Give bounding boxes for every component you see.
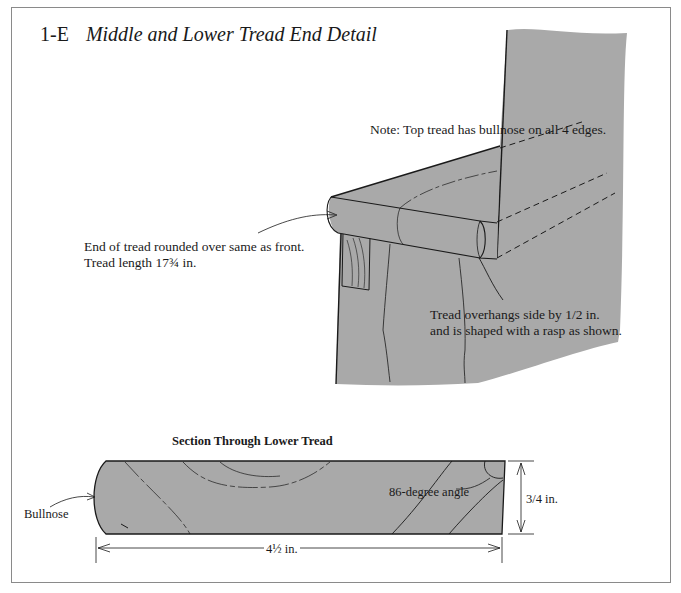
top-tread-note: Note: Top tread has bullnose on all 4 ed… — [370, 122, 606, 138]
section-title: Section Through Lower Tread — [172, 433, 333, 449]
end-of-tread-callout: End of tread rounded over same as front.… — [84, 239, 304, 271]
drawing-canvas — [0, 0, 681, 593]
width-dimension-label: 4½ in. — [264, 541, 300, 557]
bullnose-label: Bullnose — [24, 506, 68, 522]
figure-title: 1-E Middle and Lower Tread End Detail — [40, 22, 377, 46]
figure-number: 1-E — [40, 23, 69, 45]
overhang-callout: Tread overhangs side by 1/2 in. and is s… — [430, 307, 622, 339]
end-grain-block — [342, 233, 370, 290]
thickness-dimension-label: 3/4 in. — [526, 491, 558, 507]
angle-label: 86-degree angle — [389, 484, 469, 500]
end-leader-arrow — [258, 215, 335, 233]
figure-name: Middle and Lower Tread End Detail — [86, 23, 377, 45]
